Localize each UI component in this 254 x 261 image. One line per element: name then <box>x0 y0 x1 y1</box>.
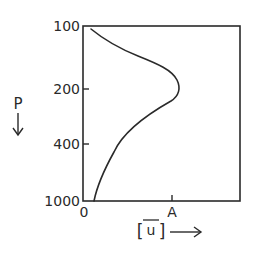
x-axis-open-bracket: [ <box>137 221 144 241</box>
y-tick-label-100: 100 <box>53 18 80 34</box>
down-arrow-icon <box>13 113 23 135</box>
x-axis-label-u: u <box>147 222 156 238</box>
right-arrow-icon <box>170 227 201 237</box>
chart-figure: 100 200 400 1000 0 A P [ u ] <box>0 0 254 261</box>
y-tick-label-1000: 1000 <box>44 193 80 209</box>
x-axis-close-bracket: ] <box>159 221 166 241</box>
x-tick-label-A: A <box>167 204 177 220</box>
wind-profile-curve <box>91 29 179 201</box>
x-tick-label-0: 0 <box>80 204 89 220</box>
y-axis-label: P <box>13 95 22 113</box>
plot-frame <box>83 26 240 201</box>
chart-svg: 100 200 400 1000 0 A P [ u ] <box>0 0 254 261</box>
y-tick-label-200: 200 <box>53 81 80 97</box>
y-tick-label-400: 400 <box>53 136 80 152</box>
